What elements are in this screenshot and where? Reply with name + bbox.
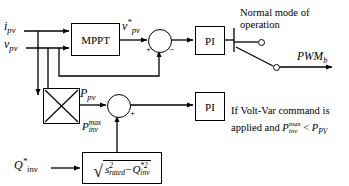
input-label-vpv: vpv (4, 38, 17, 54)
input-label-ipv: ipv (4, 20, 16, 36)
mppt-block[interactable]: MPPT (71, 23, 120, 56)
signal-label-pinv-max: Pmaxinv (82, 119, 101, 134)
normal-mode-line2: operation (240, 19, 309, 31)
multiplier-cross-icon (44, 89, 79, 123)
volt-var-contact-icon[interactable] (273, 64, 280, 71)
signal-label-vpv-ref: v*pv (122, 18, 140, 36)
sqrt-expression: √s2rated−Q*2inv (93, 160, 152, 177)
switch-blade (236, 47, 273, 66)
volt-var-line2-pre: applied and (231, 122, 282, 133)
volt-var-line2: applied and Pmaxinv < PPV (231, 121, 329, 136)
pi-controller-top[interactable]: PI (195, 26, 225, 55)
output-label-pwm: PWMb (297, 50, 327, 66)
sum-bottom-minus-sign: − (97, 100, 103, 112)
input-label-qinv-ref: Q*inv (14, 157, 38, 175)
sqrt-block[interactable]: √s2rated−Q*2inv (82, 152, 162, 184)
sum-bottom-plus-sign: + (130, 108, 135, 118)
summing-junction-bottom (107, 94, 131, 118)
multiplier-block[interactable] (43, 88, 80, 124)
pi-bottom-label: PI (205, 101, 215, 113)
signal-label-ppv: Ppv (80, 87, 96, 103)
annotation-volt-var: If Volt-Var command is applied and Pmaxi… (231, 105, 329, 137)
radical-sign-icon: √ (94, 161, 103, 180)
volt-var-ppv-symbol: PPV (312, 122, 328, 133)
pi-top-label: PI (205, 35, 215, 47)
volt-var-line1: If Volt-Var command is (231, 105, 329, 117)
volt-var-relation: < (301, 122, 312, 133)
sum-top-minus-sign: − (169, 44, 175, 56)
pi-controller-bottom[interactable]: PI (195, 92, 225, 121)
block-diagram-canvas: ipv vpv MPPT v*pv + − PI Normal mode of … (0, 0, 349, 186)
annotation-normal-mode: Normal mode of operation (240, 7, 309, 31)
normal-mode-line1: Normal mode of (240, 7, 309, 19)
normal-mode-contact-icon[interactable] (258, 39, 265, 46)
volt-var-pinv-symbol: Pmaxinv (282, 122, 300, 133)
sum-top-plus-sign: + (146, 44, 151, 54)
mppt-block-label: MPPT (81, 34, 110, 46)
